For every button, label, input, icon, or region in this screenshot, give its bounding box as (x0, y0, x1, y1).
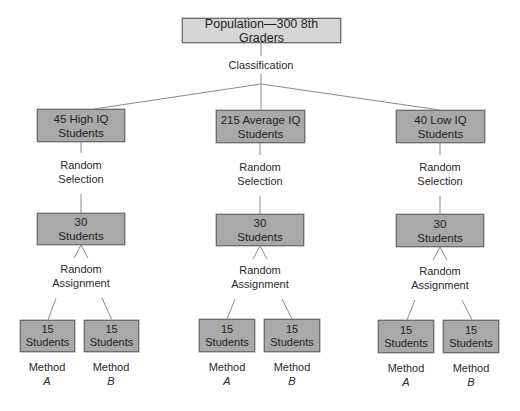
low-iq-box: 40 Low IQ Students (396, 110, 485, 143)
average-method-b-label: Method B (262, 360, 322, 388)
average-iq-unit: Students (238, 127, 283, 141)
low-method-b-label: Method B (441, 361, 501, 389)
classification-label: Classification (221, 58, 301, 72)
average-iq-box: 215 Average IQ Students (216, 110, 305, 143)
low-sample-box: 30 Students (396, 214, 484, 247)
low-random-assignment-label: Random Assignment (400, 264, 480, 292)
average-iq-count: 215 Average IQ (221, 113, 301, 127)
high-method-a-label: Method A (17, 360, 77, 388)
stratified-sampling-diagram: Population—300 8th Graders Classificatio… (0, 0, 520, 411)
average-method-b-box: 15 Students (264, 319, 320, 352)
low-method-b-box: 15 Students (443, 320, 499, 353)
average-random-selection-label: Random Selection (225, 160, 295, 188)
high-random-selection-label: Random Selection (46, 158, 116, 186)
high-iq-count: 45 High IQ (54, 112, 109, 126)
high-random-assignment-label: Random Assignment (41, 262, 121, 290)
population-label: Population—300 8th Graders (183, 17, 340, 45)
high-method-b-box: 15 Students (84, 320, 139, 352)
low-iq-count: 40 Low IQ (414, 113, 466, 127)
low-random-selection-label: Random Selection (405, 160, 475, 188)
average-sample-box: 30 Students (216, 214, 304, 246)
high-iq-box: 45 High IQ Students (37, 109, 125, 142)
average-method-a-label: Method A (197, 360, 257, 388)
average-random-assignment-label: Random Assignment (220, 263, 300, 291)
high-iq-unit: Students (58, 126, 103, 140)
low-method-a-label: Method A (376, 361, 436, 389)
low-method-a-box: 15 Students (378, 320, 434, 353)
high-method-b-label: Method B (81, 360, 141, 388)
population-box: Population—300 8th Graders (182, 18, 341, 43)
high-method-a-box: 15 Students (20, 320, 75, 352)
high-sample-box: 30 Students (37, 213, 125, 245)
low-iq-unit: Students (418, 127, 463, 141)
average-method-a-box: 15 Students (199, 319, 255, 352)
